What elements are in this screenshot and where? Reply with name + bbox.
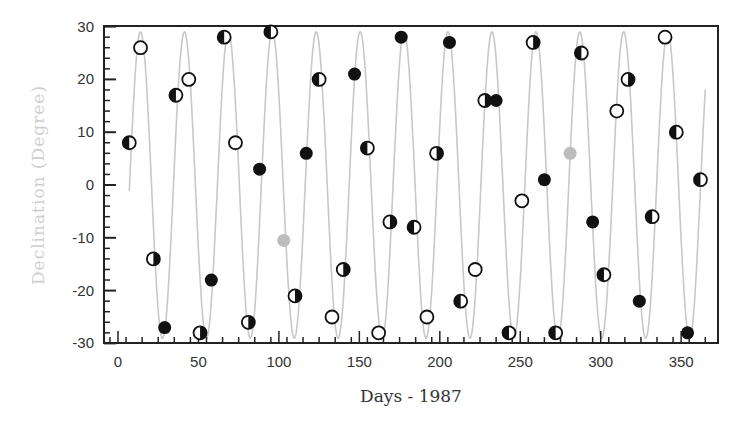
moon-phase-marker (454, 295, 467, 308)
x-tick-label: 200 (427, 353, 452, 370)
moon-phase-marker (549, 326, 562, 339)
moon-phase-marker (681, 326, 694, 339)
moon-phase-marker (622, 73, 635, 86)
moon-phase-marker (147, 252, 160, 265)
moon-phase-marker (395, 31, 408, 44)
x-tick-label: 300 (588, 353, 613, 370)
y-tick-label: -20 (72, 282, 94, 299)
moon-phase-marker (694, 173, 707, 186)
moon-phase-marker (277, 234, 290, 247)
moon-phase-marker (288, 289, 301, 302)
moon-phase-marker (205, 274, 218, 287)
x-tick-label: 350 (669, 353, 694, 370)
declination-line (129, 32, 705, 338)
y-tick-label: -10 (72, 229, 94, 246)
moon-phase-marker (242, 316, 255, 329)
moon-phase-marker (348, 68, 361, 81)
moon-phase-marker (169, 89, 182, 102)
x-tick-label: 50 (190, 353, 207, 370)
moon-phase-marker (443, 36, 456, 49)
moon-phase-marker (229, 136, 242, 149)
moon-phase-marker (182, 73, 195, 86)
moon-phase-marker (659, 31, 672, 44)
moon-phase-marker (670, 126, 683, 139)
moon-phase-marker (633, 295, 646, 308)
y-axis-label: Declination (Degree) (28, 85, 48, 285)
moon-phase-marker (527, 36, 540, 49)
moon-phase-marker (313, 73, 326, 86)
x-tick-label: 150 (347, 353, 372, 370)
x-tick-label: 250 (508, 353, 533, 370)
y-axis: -30-20-100102030 (72, 18, 116, 352)
moon-phase-marker (123, 136, 136, 149)
moon-phase-marker (420, 311, 433, 324)
moon-phase-marker (158, 321, 171, 334)
moon-phase-marker (300, 147, 313, 160)
moon-phase-marker (538, 173, 551, 186)
moon-phase-marker (597, 268, 610, 281)
declination-curve (129, 32, 705, 338)
y-tick-label: 0 (86, 176, 94, 193)
x-axis-label: Days - 1987 (360, 386, 462, 406)
y-tick-label: 10 (77, 123, 94, 140)
moon-phase-marker (253, 163, 266, 176)
moon-phase-marker (218, 31, 231, 44)
moon-phase-marker (646, 210, 659, 223)
moon-phase-marker (372, 326, 385, 339)
moon-phase-marker (586, 215, 599, 228)
y-tick-label: -30 (72, 334, 94, 351)
moon-phase-marker (575, 47, 588, 60)
moon-phase-marker (325, 311, 338, 324)
moon-phase-marker (264, 25, 277, 38)
y-tick-label: 20 (77, 70, 94, 87)
moon-phase-marker (478, 94, 491, 107)
moon-phase-marker (361, 142, 374, 155)
moon-phase-marker (610, 105, 623, 118)
moon-phase-marker (430, 147, 443, 160)
declination-chart: -30-20-100102030 050100150200250300350 D… (0, 0, 741, 427)
moon-phase-marker (408, 221, 421, 234)
x-tick-label: 0 (114, 353, 122, 370)
moon-phase-marker (383, 215, 396, 228)
moon-phase-marker (469, 263, 482, 276)
x-tick-label: 100 (266, 353, 291, 370)
moon-phase-marker (564, 147, 577, 160)
moon-phase-marker (337, 263, 350, 276)
moon-phase-marker (502, 326, 515, 339)
moon-phase-marker (134, 41, 147, 54)
y-tick-label: 30 (77, 18, 94, 35)
moon-phase-marker (515, 194, 528, 207)
moon-phase-marker (194, 326, 207, 339)
